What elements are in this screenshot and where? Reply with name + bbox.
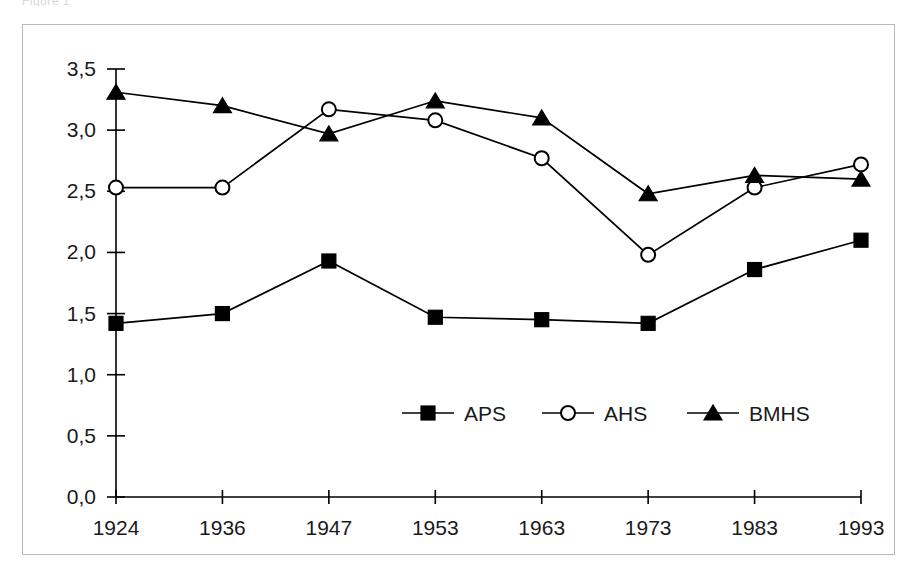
figure-frame: 0,00,51,01,52,02,53,03,5 192419361947195… [22,24,895,555]
data-point-aps-1983 [748,263,762,277]
data-point-ahs-1947 [322,102,336,116]
page-canvas: Figure 1 0,00,51,01,52,02,53,03,5 192419… [0,0,915,584]
top-caption-text: Figure 1 [22,0,70,6]
y-tick-label: 0,5 [67,424,96,447]
data-point-bmhs-1924 [107,84,125,99]
y-tick-label: 0,0 [67,485,96,508]
y-tick-label: 2,0 [67,240,96,263]
data-point-ahs-1973 [641,248,655,262]
legend-label-aps: APS [464,402,506,425]
data-point-ahs-1924 [109,181,123,195]
x-tick-label: 1947 [305,516,352,539]
y-tick-label: 3,5 [67,57,96,80]
x-tick-label: 1983 [731,516,778,539]
series-aps [109,233,868,330]
x-tick-label: 1953 [412,516,459,539]
data-point-ahs-1936 [215,181,229,195]
y-tick-label: 2,5 [67,179,96,202]
data-point-bmhs-1953 [426,93,444,108]
chart-series-layer [107,84,870,330]
data-point-aps-1947 [322,254,336,268]
y-tick-label: 1,0 [67,363,96,386]
data-point-bmhs-1947 [320,126,338,141]
legend-item-ahs[interactable]: AHS [542,402,647,425]
legend-label-ahs: AHS [604,402,647,425]
x-tick-label: 1993 [838,516,885,539]
data-point-aps-1953 [428,310,442,324]
legend-marker-aps [421,406,435,420]
legend-item-bmhs[interactable]: BMHS [687,402,810,425]
y-tick-label: 1,5 [67,302,96,325]
legend-item-aps[interactable]: APS [402,402,506,425]
legend-marker-ahs [561,406,575,420]
data-point-ahs-1953 [428,113,442,127]
data-point-aps-1963 [535,313,549,327]
data-point-aps-1936 [215,307,229,321]
data-point-aps-1993 [854,233,868,247]
legend-label-bmhs: BMHS [749,402,810,425]
data-point-aps-1973 [641,316,655,330]
x-tick-label: 1924 [93,516,140,539]
x-tick-label: 1973 [625,516,672,539]
data-point-ahs-1963 [535,151,549,165]
data-point-ahs-1993 [854,157,868,171]
x-tick-label: 1936 [199,516,246,539]
y-tick-label: 3,0 [67,118,96,141]
x-tick-label: 1963 [518,516,565,539]
line-chart: 0,00,51,01,52,02,53,03,5 192419361947195… [23,25,894,554]
chart-axes [116,69,861,497]
data-point-aps-1924 [109,316,123,330]
chart-legend: APSAHSBMHS [402,402,810,425]
